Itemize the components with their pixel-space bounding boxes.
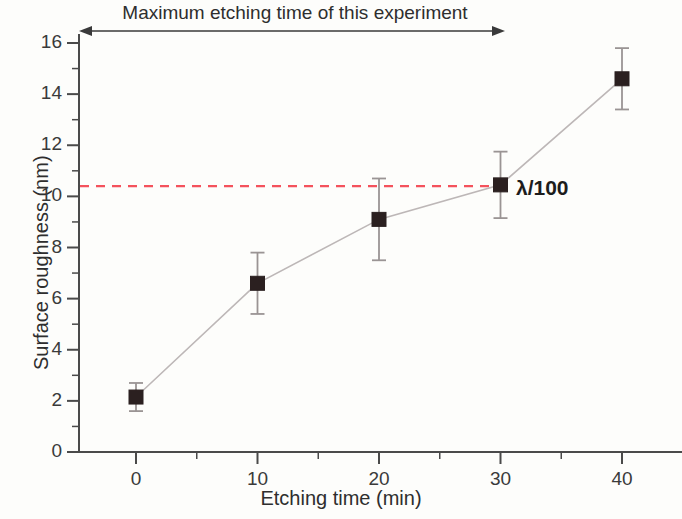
y-tick-label: 6 [16,287,62,309]
chart-figure: Maximum etching time of this experiment … [0,0,682,519]
y-tick-label: 4 [16,338,62,360]
x-tick-label: 0 [101,468,171,490]
y-tick-label: 10 [16,184,62,206]
x-axis-major-ticks [136,452,622,464]
x-tick-label: 30 [466,468,536,490]
x-tick-label: 20 [344,468,414,490]
y-axis-major-ticks [67,43,79,452]
y-tick-label: 12 [16,133,62,155]
y-tick-label: 0 [16,440,62,462]
x-axis-title: Etching time (min) [0,487,682,510]
error-bars-group [129,48,629,411]
chart-canvas [0,0,682,519]
x-tick-label: 10 [223,468,293,490]
y-tick-label: 2 [16,389,62,411]
reference-line-label: λ/100 [516,176,569,200]
y-tick-label: 14 [16,82,62,104]
axes-group [79,34,682,452]
y-tick-label: 16 [16,31,62,53]
y-tick-label: 8 [16,236,62,258]
span-arrow [79,26,505,36]
x-tick-label: 40 [587,468,657,490]
span-annotation-label: Maximum etching time of this experiment [40,2,550,24]
